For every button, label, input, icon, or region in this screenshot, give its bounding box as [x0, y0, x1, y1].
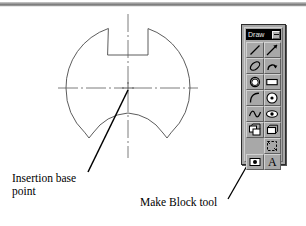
- toolbar-button-ellipse[interactable]: [264, 106, 282, 122]
- toolbar-button-multiline-text[interactable]: A: [264, 154, 282, 170]
- label-make-block-tool: Make Block tool: [140, 196, 217, 209]
- rectangle-icon: [265, 75, 279, 89]
- toolbar-button-line[interactable]: [246, 42, 264, 58]
- draw-toolbar-title: Draw: [247, 31, 264, 38]
- circle-icon: [248, 75, 262, 89]
- figure-canvas: Insertion base point Make Block tool Dra…: [0, 0, 306, 226]
- toolbar-button-spline[interactable]: [246, 106, 264, 122]
- toolbar-button-construction-line[interactable]: [264, 42, 282, 58]
- toolbar-button-point[interactable]: [246, 154, 264, 170]
- arc-icon: [248, 91, 262, 105]
- circle-center-icon: [265, 91, 279, 105]
- toolbar-button-empty: [246, 138, 264, 154]
- toolbar-button-circle-center[interactable]: [264, 90, 282, 106]
- draw-toolbar-button-grid: A: [246, 42, 281, 170]
- draw-toolbar-inner: Draw: [244, 27, 283, 162]
- line-icon: [248, 43, 262, 57]
- toolbar-button-polyline[interactable]: [246, 58, 264, 74]
- insert-block-icon: [248, 123, 262, 137]
- toolbar-button-rectangle[interactable]: [264, 74, 282, 90]
- draw-toolbar-titlebar[interactable]: Draw: [246, 29, 281, 40]
- region-icon: [265, 139, 279, 153]
- spline-icon: [248, 107, 262, 121]
- insertion-base-point-crosshair: [122, 82, 134, 94]
- point-icon: [248, 155, 262, 169]
- make-block-icon: [265, 123, 279, 137]
- label-insertion-base-point: Insertion base point: [12, 172, 76, 198]
- toolbar-button-polygon[interactable]: [264, 58, 282, 74]
- polyline-icon: [248, 59, 262, 73]
- toolbar-button-make-block[interactable]: [264, 122, 282, 138]
- toolbar-button-insert-block[interactable]: [246, 122, 264, 138]
- toolbar-button-circle[interactable]: [246, 74, 264, 90]
- close-icon[interactable]: [272, 31, 280, 39]
- polygon-icon: [265, 59, 279, 73]
- ellipse-icon: [265, 107, 279, 121]
- toolbar-button-arc[interactable]: [246, 90, 264, 106]
- draw-toolbar[interactable]: Draw: [241, 24, 286, 165]
- text-a-icon: A: [268, 156, 277, 168]
- construction-line-icon: [265, 43, 279, 57]
- toolbar-button-region[interactable]: [264, 138, 282, 154]
